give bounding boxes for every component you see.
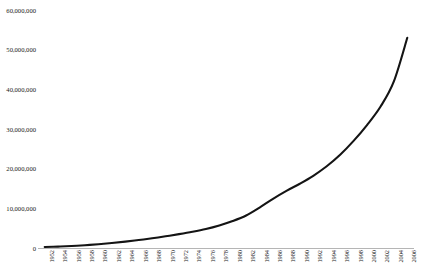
x-axis: 1952195419561958196019621964196619681970…	[38, 249, 414, 273]
y-axis-tick-label: 10,000,000	[0, 205, 36, 212]
y-axis-tick-label: 20,000,000	[0, 165, 36, 172]
y-axis-tick-label: 50,000,000	[0, 46, 36, 53]
y-axis: 60,000,00050,000,00040,000,00030,000,000…	[0, 0, 36, 273]
y-axis-tick-label: 40,000,000	[0, 86, 36, 93]
data-series-line	[45, 38, 408, 247]
y-axis-tick-label: 0	[0, 245, 36, 252]
y-axis-tick-label: 30,000,000	[0, 126, 36, 133]
plot-svg	[38, 0, 414, 249]
plot-area	[38, 0, 414, 249]
y-axis-tick-label: 60,000,000	[0, 7, 36, 14]
x-axis-tick-label: 2006	[410, 249, 421, 273]
